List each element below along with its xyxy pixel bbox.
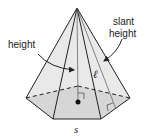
slant-label-line1: slant	[113, 16, 134, 27]
base-center-dot	[76, 100, 81, 105]
pyramid-diagram: height slant height ℓ s	[0, 0, 145, 137]
side-label: s	[74, 123, 78, 135]
slant-label-line2: height	[109, 28, 136, 39]
slant-symbol: ℓ	[93, 68, 98, 80]
height-label: height	[8, 39, 35, 50]
